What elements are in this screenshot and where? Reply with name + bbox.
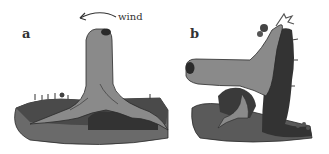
panel-label-b: b [190, 26, 199, 41]
wind-arrow-icon [80, 13, 116, 20]
illustration [0, 0, 329, 154]
wind-label: wind [118, 11, 143, 22]
panel-b-drawing [186, 14, 313, 142]
panel-a-drawing [15, 29, 168, 145]
panel-label-a: a [22, 26, 30, 41]
